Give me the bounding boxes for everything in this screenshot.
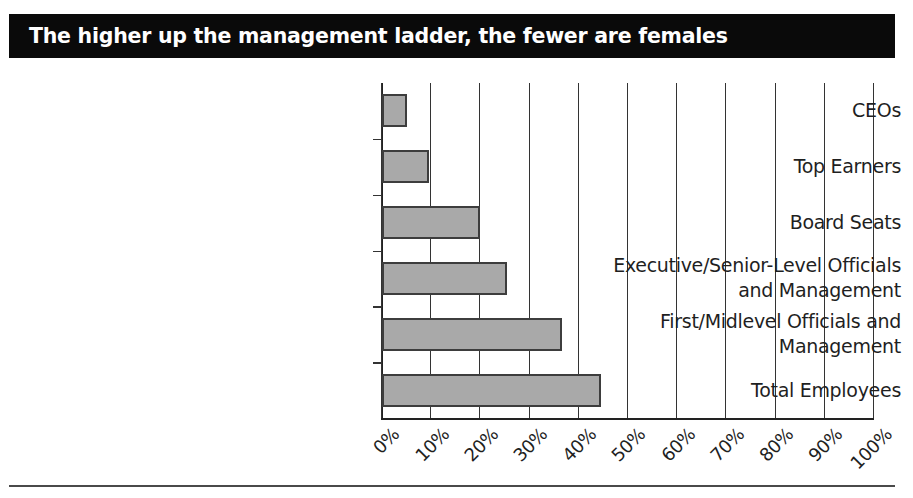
- category-label-line: and Management: [543, 278, 901, 303]
- category-label: Top Earners: [543, 154, 913, 179]
- gridline-50pct: [627, 83, 628, 418]
- x-tick-label: 30%: [509, 422, 552, 465]
- y-axis-tick: [373, 362, 381, 364]
- x-tick-label: 70%: [706, 422, 749, 465]
- x-tick-label: 80%: [755, 422, 798, 465]
- footer-rule: [9, 485, 895, 487]
- gridline-90pct: [824, 83, 825, 418]
- category-label-line: Board Seats: [543, 210, 901, 235]
- gridline-100pct: [873, 83, 874, 418]
- gridline-60pct: [676, 83, 677, 418]
- y-axis-tick: [373, 306, 381, 308]
- category-label: Board Seats: [543, 210, 913, 235]
- y-axis-tick: [373, 251, 381, 253]
- x-tick-label: 0%: [369, 422, 405, 458]
- gridline-0pct: [381, 83, 382, 418]
- gridline-40pct: [578, 83, 579, 418]
- x-axis-line: [381, 418, 874, 420]
- page-title: The higher up the management ladder, the…: [29, 24, 728, 48]
- gridline-10pct: [430, 83, 431, 418]
- x-tick-label: 40%: [558, 422, 601, 465]
- bar: [382, 318, 562, 351]
- category-label: First/Midlevel Officials andManagement: [543, 309, 913, 359]
- category-label-line: Top Earners: [543, 154, 901, 179]
- x-tick-label: 100%: [846, 422, 897, 473]
- category-label-line: Executive/Senior-Level Officials: [543, 253, 901, 278]
- gridline-70pct: [725, 83, 726, 418]
- chart-title-banner: The higher up the management ladder, the…: [9, 14, 895, 58]
- category-label-line: First/Midlevel Officials and: [543, 309, 901, 334]
- gridline-30pct: [529, 83, 530, 418]
- bar-chart: CEOsTop EarnersBoard SeatsExecutive/Seni…: [0, 58, 913, 483]
- x-tick-label: 90%: [804, 422, 847, 465]
- category-label: CEOs: [543, 98, 913, 123]
- gridline-80pct: [775, 83, 776, 418]
- category-label: Executive/Senior-Level Officialsand Mana…: [543, 253, 913, 303]
- x-tick-label: 10%: [411, 422, 454, 465]
- y-axis-tick: [373, 139, 381, 141]
- bar: [382, 262, 507, 295]
- bar: [382, 94, 407, 127]
- category-label: Total Employees: [543, 378, 913, 403]
- category-label-line: CEOs: [543, 98, 901, 123]
- x-tick-label: 50%: [607, 422, 650, 465]
- x-tick-label: 60%: [657, 422, 700, 465]
- y-axis-tick: [373, 195, 381, 197]
- category-label-line: Total Employees: [543, 378, 901, 403]
- bar: [382, 150, 429, 183]
- x-tick-label: 20%: [460, 422, 503, 465]
- bar: [382, 206, 480, 239]
- category-label-line: Management: [543, 334, 901, 359]
- gridline-20pct: [479, 83, 480, 418]
